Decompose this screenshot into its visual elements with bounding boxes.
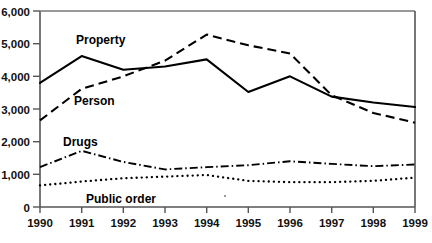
- x-tick-label-1990: 1990: [27, 217, 53, 229]
- y-tick-label-1000: 1,000: [1, 169, 30, 181]
- x-tick-label-1996: 1996: [277, 217, 303, 229]
- x-axis-ticks: [40, 207, 415, 213]
- y-axis-labels: 6,000 5,000 4,000 3,000 2,000 1,000 0: [1, 6, 30, 214]
- x-tick-label-1999: 1999: [402, 217, 428, 229]
- y-tick-label-5000: 5,000: [1, 38, 30, 50]
- x-tick-label-1997: 1997: [319, 217, 345, 229]
- y-axis-ticks: [33, 11, 40, 207]
- page-edge-smudge: · · - · · - · · - · - · - · · - · - · · …: [60, 238, 380, 243]
- scan-artifact-dot: [224, 195, 226, 197]
- x-tick-label-1993: 1993: [152, 217, 178, 229]
- chart-figure: 6,000 5,000 4,000 3,000 2,000 1,000 0 19…: [0, 0, 432, 243]
- series-label-public-order: Public order: [86, 192, 156, 206]
- series-label-drugs: Drugs: [63, 135, 98, 149]
- y-tick-label-0: 0: [24, 202, 30, 214]
- series-label-property: Property: [76, 33, 126, 47]
- x-tick-label-1994: 1994: [194, 217, 220, 229]
- y-tick-label-6000: 6,000: [1, 6, 30, 18]
- line-chart: 6,000 5,000 4,000 3,000 2,000 1,000 0 19…: [0, 0, 432, 243]
- series-label-person: Person: [74, 94, 115, 108]
- x-tick-label-1992: 1992: [111, 217, 137, 229]
- x-tick-label-1995: 1995: [236, 217, 262, 229]
- y-tick-label-4000: 4,000: [1, 71, 30, 83]
- y-tick-label-2000: 2,000: [1, 136, 30, 148]
- x-tick-label-1998: 1998: [361, 217, 387, 229]
- x-axis-labels: 1990 1991 1992 1993 1994 1995 1996 1997 …: [27, 217, 428, 229]
- x-tick-label-1991: 1991: [69, 217, 95, 229]
- y-tick-label-3000: 3,000: [1, 104, 30, 116]
